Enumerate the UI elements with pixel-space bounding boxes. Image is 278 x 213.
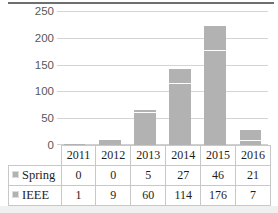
bar-segment-spring-2016 — [240, 130, 262, 141]
chart-container: 250 200 150 100 50 0 2011 2012 2013 2014… — [0, 0, 278, 213]
cell-spring-2015: 46 — [201, 166, 236, 186]
cell-spring-2014: 27 — [166, 166, 201, 186]
cell-spring-2011: 0 — [61, 166, 96, 186]
plot-area — [57, 11, 268, 145]
year-header-2015: 2015 — [201, 146, 236, 166]
bar-column-2015 — [198, 11, 233, 145]
cell-spring-2012: 0 — [96, 166, 131, 186]
bar-stack-2016 — [240, 130, 262, 145]
series-label-ieee: IEEE — [22, 188, 49, 202]
cell-ieee-2015: 176 — [201, 186, 236, 206]
y-tick-100: 100 — [35, 85, 54, 97]
bar-column-2013 — [127, 11, 162, 145]
bar-series-group — [57, 11, 268, 145]
bar-segment-ieee-2013 — [134, 113, 156, 145]
bar-column-2012 — [92, 11, 127, 145]
bar-column-2016 — [233, 11, 268, 145]
year-header-2011: 2011 — [61, 146, 96, 166]
legend-swatch-icon — [12, 171, 19, 178]
cell-ieee-2013: 60 — [131, 186, 166, 206]
bar-stack-2015 — [204, 26, 226, 145]
table-corner-cell — [9, 146, 62, 166]
bar-column-2011 — [57, 11, 92, 145]
y-tick-50: 50 — [41, 112, 54, 124]
chart-data-table: 2011 2012 2013 2014 2015 2016 Spring 0 0… — [8, 145, 271, 206]
bar-stack-2013 — [134, 110, 156, 145]
cell-ieee-2014: 114 — [166, 186, 201, 206]
y-tick-200: 200 — [35, 32, 54, 44]
year-header-2016: 2016 — [236, 146, 271, 166]
series-label-spring: Spring — [22, 168, 55, 182]
bar-column-2014 — [163, 11, 198, 145]
table-header-row: 2011 2012 2013 2014 2015 2016 — [9, 146, 271, 166]
series-label-cell-spring: Spring — [9, 166, 62, 186]
y-tick-150: 150 — [35, 59, 54, 71]
y-tick-250: 250 — [35, 5, 54, 17]
table-row-spring: Spring 0 0 5 27 46 21 — [9, 166, 271, 186]
cell-spring-2013: 5 — [131, 166, 166, 186]
y-axis-tick-labels: 250 200 150 100 50 0 — [24, 0, 54, 156]
cell-ieee-2016: 7 — [236, 186, 271, 206]
bar-segment-ieee-2014 — [169, 84, 191, 145]
table-row-ieee: IEEE 1 9 60 114 176 7 — [9, 186, 271, 206]
cell-spring-2016: 21 — [236, 166, 271, 186]
year-header-2014: 2014 — [166, 146, 201, 166]
cell-ieee-2012: 9 — [96, 186, 131, 206]
bar-segment-spring-2014 — [169, 69, 191, 83]
year-header-2013: 2013 — [131, 146, 166, 166]
bar-segment-ieee-2015 — [204, 51, 226, 145]
cell-ieee-2011: 1 — [61, 186, 96, 206]
bar-segment-spring-2015 — [204, 26, 226, 51]
year-header-2012: 2012 — [96, 146, 131, 166]
legend-swatch-icon — [12, 191, 19, 198]
bar-stack-2014 — [169, 69, 191, 145]
series-label-cell-ieee: IEEE — [9, 186, 62, 206]
bottom-band — [0, 206, 278, 213]
